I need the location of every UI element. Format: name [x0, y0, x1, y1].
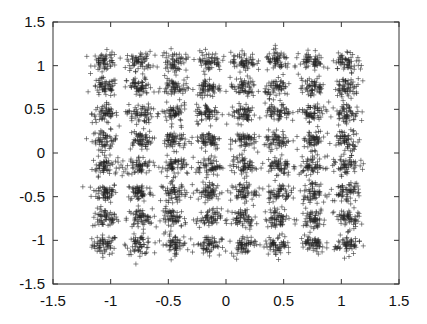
y-tick-label: -1.5	[19, 275, 45, 292]
data-markers	[80, 43, 366, 267]
scatter-points	[80, 43, 366, 267]
x-tick-label: 1	[337, 292, 345, 309]
x-tick-label: 0	[222, 292, 230, 309]
y-tick-label: -0.5	[19, 188, 45, 205]
y-tick-label: 1.5	[24, 13, 45, 30]
x-axis-tick-labels: -1.5-1-0.500.511.5	[40, 292, 409, 309]
y-tick-label: 0	[37, 144, 45, 161]
x-tick-label: -1	[104, 292, 117, 309]
x-tick-label: -0.5	[155, 292, 181, 309]
x-tick-label: -1.5	[40, 292, 66, 309]
x-tick-label: 1.5	[389, 292, 410, 309]
scatter-chart: -1.5-1-0.500.511.5 -1.5-1-0.500.511.5	[0, 0, 427, 324]
x-tick-label: 0.5	[273, 292, 294, 309]
y-tick-label: -1	[32, 231, 45, 248]
y-tick-label: 0.5	[24, 100, 45, 117]
y-axis-tick-labels: -1.5-1-0.500.511.5	[19, 13, 45, 292]
y-tick-label: 1	[37, 57, 45, 74]
